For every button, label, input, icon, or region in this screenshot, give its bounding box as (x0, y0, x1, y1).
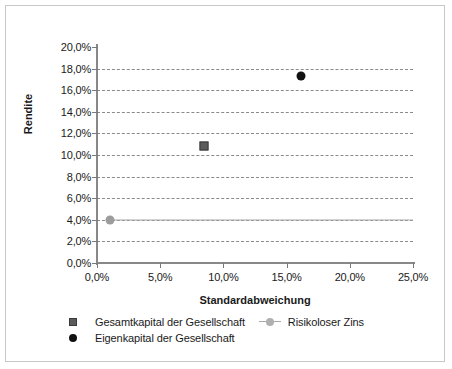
y-axis-tick-label: 16,0% (61, 85, 91, 96)
x-axis-tick-label: 10,0% (208, 272, 238, 283)
legend-item-eigenkapital[interactable]: Eigenkapital der Gesellschaft (66, 332, 235, 345)
y-axis-tick (92, 155, 98, 156)
y-axis-tick-label: 14,0% (61, 106, 91, 117)
y-axis-tick-label: 6,0% (67, 193, 91, 204)
x-axis-tick (160, 263, 161, 268)
gridline-horizontal (97, 241, 413, 242)
x-axis-tick (287, 263, 288, 268)
gridline-horizontal (97, 155, 413, 156)
data-point-marker[interactable] (200, 142, 209, 151)
x-axis-tick (350, 263, 351, 268)
y-axis-tick-label: 0,0% (67, 258, 91, 269)
x-axis-title: Standardabweichung (97, 294, 413, 306)
y-axis-tick-label: 2,0% (67, 236, 91, 247)
y-axis-tick-label: 20,0% (61, 42, 91, 53)
gridline-horizontal (97, 198, 413, 199)
plot-area: 0,0%2,0%4,0%6,0%8,0%10,0%12,0%14,0%16,0%… (97, 47, 413, 263)
chart-frame: Rendite 0,0%2,0%4,0%6,0%8,0%10,0%12,0%14… (5, 5, 445, 362)
y-axis-tick-label: 8,0% (67, 171, 91, 182)
y-axis-title: Rendite (20, 6, 36, 222)
square-marker-icon (66, 316, 88, 328)
data-point-marker[interactable] (105, 215, 114, 224)
gridline-horizontal (97, 90, 413, 91)
x-axis-tick-label: 25,0% (398, 272, 428, 283)
gridline-horizontal (97, 177, 413, 178)
x-axis-tick (223, 263, 224, 268)
gridline-horizontal (97, 133, 413, 134)
y-axis-tick (92, 69, 98, 70)
gridline-horizontal (97, 69, 413, 70)
x-axis-tick-label: 20,0% (335, 272, 365, 283)
chart-legend: Gesamtkapital der Gesellschaft Risikolos… (66, 314, 406, 346)
legend-row-2: Eigenkapital der Gesellschaft (66, 330, 406, 346)
y-axis-tick-label: 12,0% (61, 128, 91, 139)
y-axis-tick (92, 47, 98, 48)
x-axis-tick (413, 263, 414, 268)
y-axis-tick (92, 241, 98, 242)
y-axis-tick (92, 112, 98, 113)
legend-label: Eigenkapital der Gesellschaft (95, 332, 235, 345)
legend-label: Gesamtkapital der Gesellschaft (95, 316, 245, 329)
x-axis-tick-label: 0,0% (85, 272, 109, 283)
y-axis-tick-label: 4,0% (67, 214, 91, 225)
y-axis-tick (92, 90, 98, 91)
data-point-marker[interactable] (296, 72, 305, 81)
y-axis-tick (92, 198, 98, 199)
gridline-horizontal (97, 112, 413, 113)
y-axis-tick-label: 10,0% (61, 150, 91, 161)
x-axis-tick-label: 15,0% (271, 272, 301, 283)
circle-marker-icon (66, 332, 88, 344)
reference-line (110, 219, 413, 220)
x-axis-tick-label: 5,0% (148, 272, 172, 283)
y-axis-tick-label: 18,0% (61, 63, 91, 74)
y-axis-tick (92, 177, 98, 178)
x-axis-tick (97, 263, 98, 268)
y-axis-tick (92, 220, 98, 221)
legend-label: Risikoloser Zins (288, 316, 364, 329)
legend-row-1: Gesamtkapital der Gesellschaft Risikolos… (66, 314, 406, 330)
y-axis-tick (92, 133, 98, 134)
y-axis-title-label: Rendite (22, 94, 34, 134)
line-circle-marker-icon (259, 316, 281, 328)
legend-item-risikoloser-zins[interactable]: Risikoloser Zins (259, 316, 364, 329)
legend-item-gesamtkapital[interactable]: Gesamtkapital der Gesellschaft (66, 316, 245, 329)
